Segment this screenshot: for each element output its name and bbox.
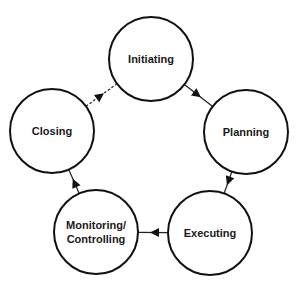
edge-monitoring-to-closing [69,170,81,194]
node-initiating: Initiating [109,17,193,101]
node-planning: Planning [204,90,288,174]
edge-executing-to-monitoring [138,228,168,237]
node-closing: Closing [10,89,94,173]
edge-planning-to-executing [224,172,234,194]
arrowhead-icon [150,228,159,237]
node-label: Monitoring/ [66,219,126,231]
node-monitoring: Monitoring/Controlling [54,190,138,274]
node-label: Planning [223,126,269,138]
process-cycle-diagram: InitiatingPlanningExecutingMonitoring/Co… [0,0,297,286]
node-circle [54,190,138,274]
node-label: Executing [184,227,237,239]
node-label: Initiating [128,53,174,65]
edge-initiating-to-planning [184,85,212,107]
node-label: Closing [32,125,72,137]
arrowhead-icon [191,88,201,97]
arrowhead-icon [94,93,104,102]
node-executing: Executing [168,191,252,275]
edge-closing-to-initiating [86,84,117,107]
nodes-layer: InitiatingPlanningExecutingMonitoring/Co… [10,17,288,275]
node-label: Controlling [67,233,126,245]
